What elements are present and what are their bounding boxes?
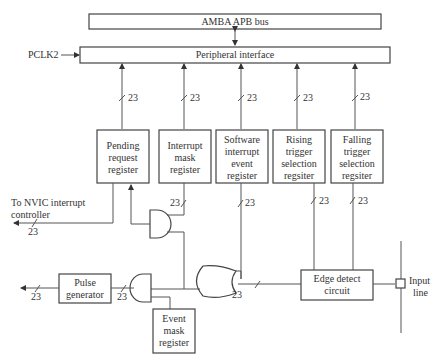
peripheral-interface-label: Peripheral interface [80, 49, 390, 61]
input-line-label: Input line [409, 275, 430, 299]
event-mask-register-label: Event mask register [153, 313, 195, 349]
event-mask-to-and-line [151, 297, 170, 309]
bus-width-label: 23 [190, 93, 200, 103]
bus-width-label: 23 [128, 93, 138, 103]
pulse-input-bus-width-label: 23 [117, 292, 127, 302]
nvic-bus-width-label: 23 [28, 227, 38, 237]
register-to-peripheral-arrows [119, 64, 358, 129]
and-gate-to-pending-line [131, 185, 150, 224]
swier-to-or-line [236, 271, 241, 279]
bus-width-label: 23 [319, 196, 329, 206]
or-to-upper-and-line [167, 232, 184, 279]
rising-trigger-selection-register-label: Rising trigger selection regsiter [273, 134, 325, 182]
exti-block-diagram: AMBA APB bus Peripheral interface PCLK2 … [0, 0, 438, 364]
bus-width-label: 23 [247, 93, 257, 103]
or-gate [197, 266, 237, 298]
amba-apb-bus-label: AMBA APB bus [89, 16, 381, 28]
input-pin-square [396, 279, 405, 288]
or-bus-width-label: 23 [232, 290, 242, 300]
bus-width-label: 23 [245, 198, 255, 208]
pulse-generator-label: Pulse generator [59, 277, 111, 301]
nvic-label: To NVIC interrupt controller [11, 197, 85, 221]
pending-request-register-label: Pending request register [97, 140, 149, 176]
edge-detect-circuit-label: Edge detect circuit [301, 273, 373, 297]
upper-and-gate [150, 210, 171, 238]
falling-trigger-selection-register-label: Falling trigger selection regsiter [331, 134, 383, 182]
bus-width-label: 23 [303, 93, 313, 103]
bus-width-label: 23 [358, 196, 368, 206]
figure-caption [175, 353, 325, 358]
bus-width-label: 23 [360, 92, 370, 102]
bus-width-label: 23 [170, 198, 180, 208]
interrupt-mask-register-label: Interrupt mask register [159, 140, 211, 176]
pulse-output-bus-width-label: 23 [31, 292, 41, 302]
software-interrupt-event-register-label: Software interrupt event register [216, 134, 268, 182]
pclk2-label: PCLK2 [28, 49, 59, 61]
